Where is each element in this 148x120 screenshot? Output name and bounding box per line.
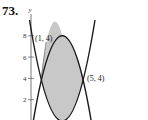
y-tick-label-4: 4	[23, 75, 27, 83]
chart: y 8 6 4 2 (1, 4) (5, 4)	[0, 0, 148, 120]
y-tick-label-6: 6	[23, 54, 27, 62]
point-label-1-4: (1, 4)	[35, 34, 53, 43]
y-axis-label: y	[28, 6, 33, 14]
y-tick-label-8: 8	[23, 32, 27, 40]
y-tick-label-2: 2	[23, 96, 27, 104]
point-label-5-4: (5, 4)	[87, 74, 105, 83]
